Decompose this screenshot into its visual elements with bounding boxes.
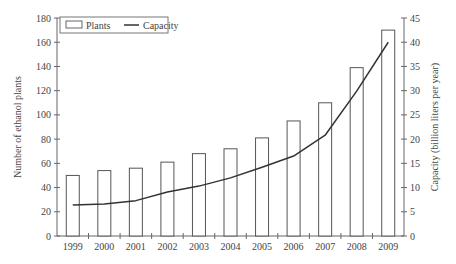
- plants-bar: [192, 154, 205, 236]
- x-tick-label: 2001: [126, 241, 146, 252]
- legend-plants-swatch: [66, 21, 82, 28]
- x-tick-label: 2007: [315, 241, 335, 252]
- y-tick-label: 20: [41, 206, 51, 217]
- plants-bar: [350, 68, 363, 236]
- x-tick-label: 1999: [63, 241, 83, 252]
- plants-bar: [287, 121, 300, 236]
- y2-tick-label: 0: [410, 231, 415, 242]
- y2-tick-label: 25: [410, 109, 420, 120]
- y2-tick-label: 20: [410, 134, 420, 145]
- y-tick-label: 140: [36, 61, 51, 72]
- y-tick-label: 60: [41, 158, 51, 169]
- plants-bars: [66, 30, 394, 236]
- y2-tick-label: 35: [410, 61, 420, 72]
- x-tick-label: 2005: [252, 241, 272, 252]
- y-tick-label: 180: [36, 13, 51, 24]
- legend: Plants Capacity: [60, 17, 179, 33]
- plants-bar: [129, 168, 142, 236]
- x-tick-label: 2003: [189, 241, 209, 252]
- y2-tick-label: 15: [410, 158, 420, 169]
- plants-bar: [66, 175, 79, 236]
- plants-bar: [319, 103, 332, 236]
- y-tick-label: 100: [36, 109, 51, 120]
- y-tick-label: 160: [36, 37, 51, 48]
- x-tick-label: 2004: [221, 241, 241, 252]
- y2-axis-label: Capacity (billion liters per year): [429, 63, 441, 191]
- y2-tick-label: 5: [410, 206, 415, 217]
- y-tick-label: 80: [41, 134, 51, 145]
- y-axis-label: Number of ethanol plants: [12, 76, 23, 178]
- y-tick-label: 120: [36, 85, 51, 96]
- legend-plants-label: Plants: [86, 20, 111, 31]
- y-tick-label: 40: [41, 182, 51, 193]
- plants-bar: [256, 138, 269, 236]
- y2-tick-label: 10: [410, 182, 420, 193]
- plants-bar: [382, 30, 395, 236]
- y2-tick-label: 30: [410, 85, 420, 96]
- x-tick-label: 2006: [284, 241, 304, 252]
- x-tick-label: 2009: [378, 241, 398, 252]
- ethanol-chart: 0204060801001201401601800510152025303540…: [0, 0, 456, 264]
- x-tick-label: 2000: [94, 241, 114, 252]
- y-tick-label: 0: [46, 231, 51, 242]
- plants-bar: [224, 149, 237, 236]
- x-tick-label: 2008: [347, 241, 367, 252]
- plants-bar: [161, 162, 174, 236]
- y2-tick-label: 45: [410, 13, 420, 24]
- x-tick-label: 2002: [157, 241, 177, 252]
- y2-tick-label: 40: [410, 37, 420, 48]
- legend-capacity-label: Capacity: [143, 20, 179, 31]
